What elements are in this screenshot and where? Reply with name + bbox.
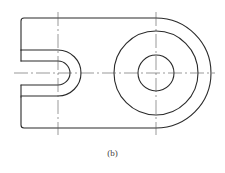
figure-caption: (b) [0,148,225,158]
